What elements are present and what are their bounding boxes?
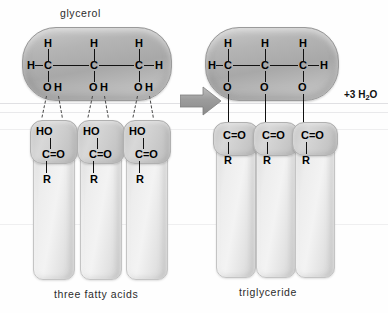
- fatty-acid-hydroxyl-2: HO: [83, 126, 100, 137]
- glycerol-carbon-3: C: [135, 60, 143, 71]
- bond-c-r: [139, 161, 140, 173]
- bond-c-r: [267, 142, 268, 154]
- bond-c-r: [93, 161, 94, 173]
- triglyceride-tail: [256, 142, 296, 278]
- glycerol-h-right: H: [155, 60, 163, 71]
- water-prefix: +3 H: [344, 89, 365, 100]
- product-h-right: H: [320, 60, 328, 71]
- product-carbon-3: C: [299, 60, 307, 71]
- fatty-acid-r-2: R: [90, 174, 98, 185]
- bond-c1-c2: [53, 65, 89, 66]
- product-carbonyl-1: C=O: [223, 130, 246, 141]
- bond-c-r: [306, 142, 307, 154]
- bond-c-r: [228, 142, 229, 154]
- product-h-top-2: H: [261, 38, 269, 49]
- fatty-acid-r-1: R: [43, 174, 51, 185]
- fatty-acid-tail: [80, 146, 122, 280]
- product-carbon-2: C: [261, 60, 269, 71]
- bond-c-r: [46, 161, 47, 173]
- bond-hterm-c1: [35, 65, 43, 66]
- glycerol-hydroxyl-h-2: H: [100, 82, 108, 93]
- ester-oxygen-2: O: [260, 82, 269, 93]
- product-carbon-1: C: [224, 60, 232, 71]
- water-byproduct: +3 H2O: [344, 89, 377, 102]
- product-carbonyl-3: C=O: [301, 130, 324, 141]
- fatty-acid-hydroxyl-3: HO: [129, 126, 146, 137]
- product-r-1: R: [224, 155, 232, 166]
- water-suffix: O: [370, 89, 378, 100]
- product-h-top-3: H: [299, 38, 307, 49]
- ester-oxygen-3: O: [298, 82, 307, 93]
- glycerol-hydroxyl-o-2: O: [89, 82, 98, 93]
- glycerol-label: glycerol: [60, 7, 101, 19]
- product-carbonyl-2: C=O: [262, 130, 285, 141]
- product-h-left: H: [208, 60, 216, 71]
- condensation-dash: [149, 96, 154, 118]
- fatty-acid-hydroxyl-1: HO: [36, 126, 53, 137]
- glycerol-carbon-2: C: [90, 60, 98, 71]
- product-r-2: R: [263, 155, 271, 166]
- glycerol-hydroxyl-h-3: H: [145, 82, 153, 93]
- triglyceride-label: triglyceride: [239, 286, 297, 298]
- fatty-acid-carbonyl-1: C=O: [42, 149, 65, 160]
- triglyceride-tail: [216, 142, 256, 278]
- glycerol-h-top-1: H: [44, 38, 52, 49]
- bond-hterm-c1: [216, 65, 223, 66]
- product-r-3: R: [302, 155, 310, 166]
- diagram-canvas: glycerol H H H H H C C C O H O H O H HO …: [0, 0, 388, 313]
- bond-c2-c3: [99, 65, 134, 66]
- fatty-acid-carbonyl-2: C=O: [89, 149, 112, 160]
- fatty-acid-carbonyl-3: C=O: [135, 149, 158, 160]
- bond-c3-hterm: [144, 65, 154, 66]
- ester-oxygen-1: O: [223, 82, 232, 93]
- fatty-acid-r-3: R: [136, 174, 144, 185]
- glycerol-hydroxyl-o-3: O: [134, 82, 143, 93]
- glycerol-h-left: H: [27, 60, 35, 71]
- glycerol-hydroxyl-o-1: O: [43, 82, 52, 93]
- product-h-top-1: H: [224, 38, 232, 49]
- fatty-acid-tail: [33, 146, 75, 280]
- glycerol-hydroxyl-h-1: H: [54, 82, 62, 93]
- glycerol-carbon-1: C: [44, 60, 52, 71]
- glycerol-h-top-3: H: [135, 38, 143, 49]
- bond-c1-c2: [233, 65, 260, 66]
- glycerol-h-top-2: H: [90, 38, 98, 49]
- fatty-acids-label: three fatty acids: [54, 288, 138, 300]
- condensation-dash: [41, 96, 47, 118]
- bond-c3-hterm: [308, 65, 319, 66]
- bond-c2-c3: [270, 65, 298, 66]
- fatty-acid-tail: [126, 146, 168, 280]
- triglyceride-tail: [295, 142, 335, 278]
